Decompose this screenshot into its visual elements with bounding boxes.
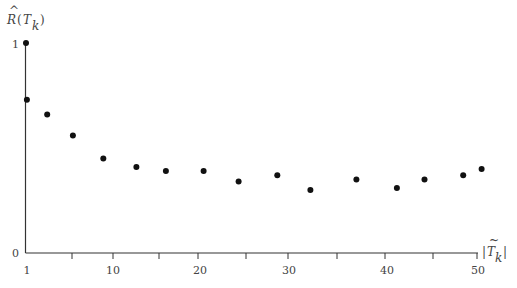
data-point bbox=[44, 111, 50, 117]
svg-text:(: ( bbox=[17, 13, 22, 27]
data-point bbox=[274, 172, 280, 178]
x-axis-title: | ~ T k | bbox=[482, 233, 507, 265]
data-points bbox=[23, 40, 485, 193]
svg-text:|: | bbox=[503, 245, 507, 259]
y-axis-title: ^ R ( T k ) bbox=[6, 4, 45, 33]
data-point bbox=[133, 164, 139, 170]
data-point bbox=[479, 166, 485, 172]
x-tick-label-40: 40 bbox=[380, 264, 394, 277]
x-tick-label-10: 10 bbox=[106, 264, 120, 277]
data-point bbox=[353, 177, 359, 183]
data-point bbox=[422, 177, 428, 183]
data-point bbox=[163, 168, 169, 174]
data-point bbox=[307, 187, 313, 193]
svg-text:k: k bbox=[32, 19, 39, 33]
x-tick-label-30: 30 bbox=[282, 264, 296, 277]
svg-text:R: R bbox=[6, 13, 16, 27]
x-tick-label-1: 1 bbox=[24, 264, 31, 277]
data-point bbox=[100, 156, 106, 162]
x-tick-label-50: 50 bbox=[471, 264, 485, 277]
svg-text:|: | bbox=[482, 245, 486, 259]
y-tick-label-0: 0 bbox=[12, 247, 19, 260]
data-point bbox=[460, 172, 466, 178]
data-point bbox=[23, 40, 29, 46]
scatter-chart: 1 0 1 10 20 30 40 50 ^ R ( T k ) | ~ T k… bbox=[0, 0, 517, 288]
svg-text:k: k bbox=[495, 251, 502, 265]
data-point bbox=[236, 179, 242, 185]
x-ticks bbox=[72, 253, 477, 259]
svg-text:): ) bbox=[40, 13, 45, 27]
x-tick-label-20: 20 bbox=[193, 264, 207, 277]
data-point bbox=[201, 168, 207, 174]
svg-text:T: T bbox=[23, 13, 32, 27]
data-point bbox=[70, 132, 76, 138]
data-point bbox=[24, 97, 30, 103]
data-point bbox=[394, 185, 400, 191]
y-tick-label-1: 1 bbox=[12, 38, 19, 51]
